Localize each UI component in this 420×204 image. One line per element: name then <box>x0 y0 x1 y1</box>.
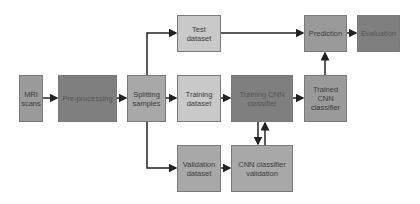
node-training-dataset: Training dataset <box>177 75 221 122</box>
node-prediction: Prediction <box>304 15 347 52</box>
node-cnn-classifier-validation: CNN classifier validation <box>231 145 293 192</box>
node-pre-processing: Pre-processing <box>58 75 117 122</box>
node-evaluation: Evaluation <box>357 15 400 52</box>
node-mri-scans: MRI scans <box>19 75 43 122</box>
node-trained-cnn-classifier: Trained CNN classifier <box>304 75 347 122</box>
node-test-dataset: Test dataset <box>177 15 221 52</box>
node-splitting-samples: Splitting samples <box>127 75 166 122</box>
node-validation-dataset: Validation dataset <box>177 145 221 192</box>
node-training-cnn-classifier: Training CNN classifier <box>231 75 293 122</box>
